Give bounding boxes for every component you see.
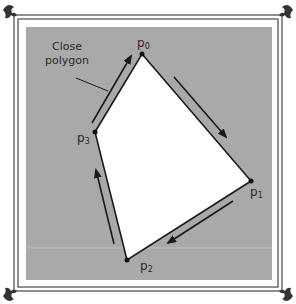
vertex-p1 bbox=[249, 179, 254, 184]
vertex-p0 bbox=[140, 52, 145, 57]
vertex-p2 bbox=[125, 258, 130, 263]
vertex-p3 bbox=[93, 130, 98, 135]
annotation-close-polygon-line2: polygon bbox=[45, 54, 89, 67]
polygon-diagram: p0 p1 p2 p3 Close polygon bbox=[0, 0, 296, 304]
annotation-close-polygon-line1: Close bbox=[52, 40, 82, 53]
